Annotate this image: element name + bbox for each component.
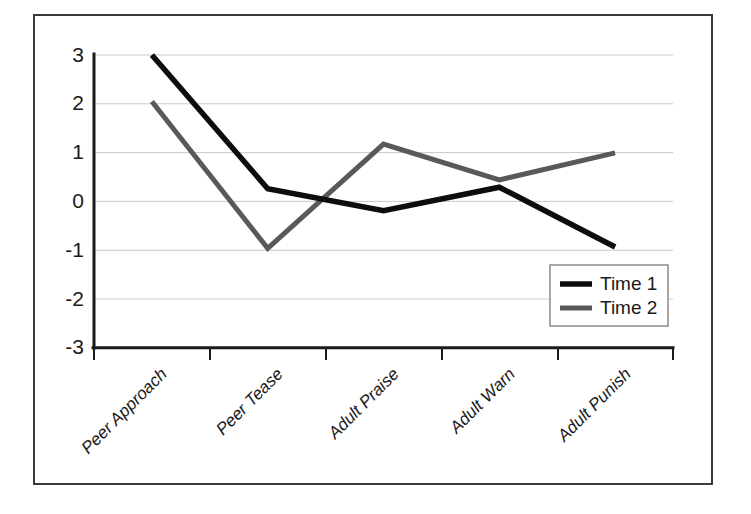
x-tick-label-adult-praise: Adult Praise	[324, 364, 403, 443]
x-tick-marks-group	[94, 348, 673, 360]
legend-label-time-1: Time 1	[600, 273, 657, 294]
x-tick-label-peer-tease: Peer Tease	[212, 364, 286, 438]
x-tick-label-adult-warn: Adult Warn	[445, 364, 518, 437]
line-chart-plot: 3 2 1 0 -1 -2 -3 Peer Approach Peer Teas…	[0, 0, 751, 514]
y-tick-labels-group: 3 2 1 0 -1 -2 -3	[65, 43, 84, 359]
y-tick-label-3: 3	[72, 43, 84, 66]
legend-label-time-2: Time 2	[600, 297, 657, 318]
x-tick-labels-group: Peer Approach Peer Tease Adult Praise Ad…	[78, 364, 635, 457]
series-line-time-1	[152, 55, 615, 247]
x-tick-label-peer-approach: Peer Approach	[78, 364, 171, 457]
y-tick-label-0: 0	[72, 189, 84, 212]
y-tick-label-minus-2: -2	[65, 287, 84, 310]
y-tick-label-1: 1	[72, 140, 84, 163]
y-tick-label-minus-1: -1	[65, 238, 84, 261]
x-tick-label-adult-punish: Adult Punish	[553, 364, 635, 446]
chart-legend: Time 1 Time 2	[550, 265, 668, 326]
y-tick-label-minus-3: -3	[65, 335, 84, 358]
y-tick-label-2: 2	[72, 91, 84, 114]
chart-figure: 3 2 1 0 -1 -2 -3 Peer Approach Peer Teas…	[0, 0, 751, 514]
series-line-time-2	[152, 102, 615, 249]
